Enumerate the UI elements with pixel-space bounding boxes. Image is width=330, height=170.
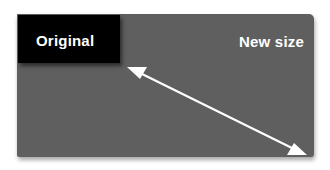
- original-rectangle: Original: [18, 15, 120, 63]
- new-size-label: New size: [239, 33, 304, 50]
- original-label: Original: [36, 32, 94, 49]
- resize-diagram: New size Original: [0, 0, 330, 170]
